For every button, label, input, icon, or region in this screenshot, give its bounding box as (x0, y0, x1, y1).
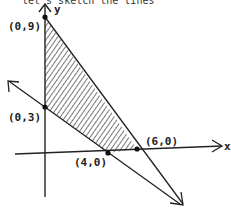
label-0-3: (0,3) (8, 111, 41, 124)
x-axis-label: x (224, 140, 231, 153)
point-0-3 (42, 104, 47, 109)
point-0-9 (42, 14, 47, 19)
label-4-0: (4,0) (74, 156, 107, 169)
feasible-region-sketch: let's sketch the lines y x (0,9) (0,3) (… (0, 0, 231, 211)
shaded-feasible-region (45, 17, 137, 153)
y-axis-label: y (54, 3, 61, 16)
label-6-0: (6,0) (145, 135, 178, 148)
point-6-0 (134, 146, 139, 151)
point-4-0 (105, 150, 110, 155)
label-0-9: (0,9) (8, 20, 41, 33)
caption-text: let's sketch the lines (22, 0, 154, 6)
